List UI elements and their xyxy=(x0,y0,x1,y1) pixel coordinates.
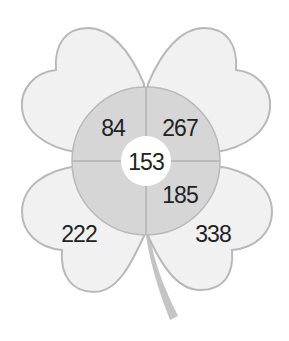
ring-bottom-right-value: 185 xyxy=(162,184,197,207)
leaf-bottom-right-value: 338 xyxy=(195,223,230,246)
ring-top-left-value: 84 xyxy=(101,117,125,140)
leaf-bottom-left-value: 222 xyxy=(61,223,96,246)
ring-top-right-value: 267 xyxy=(162,117,197,140)
center-value: 153 xyxy=(128,151,163,174)
